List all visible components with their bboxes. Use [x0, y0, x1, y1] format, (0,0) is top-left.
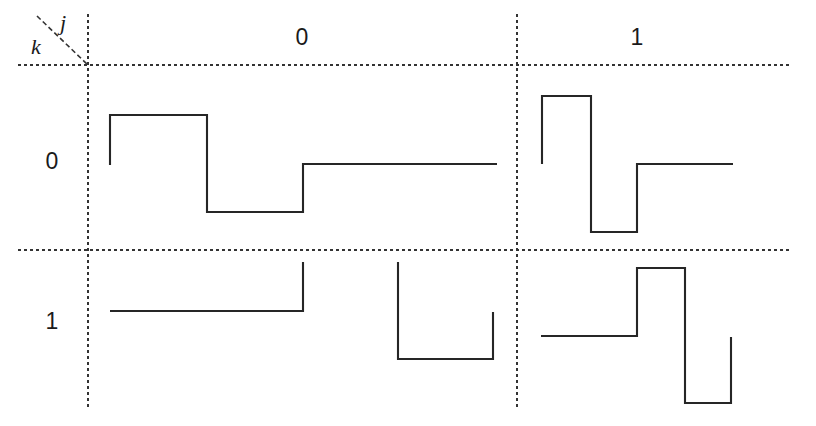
column-variable-label: j [60, 12, 66, 34]
figure-canvas [0, 0, 816, 426]
waveform-k0-j1 [542, 96, 733, 232]
row-header-1: 1 [32, 310, 72, 333]
waveform-k1-j1 [541, 268, 731, 403]
waveform-truth-table-figure: j k 0 1 0 1 [0, 0, 816, 426]
row-variable-label: k [31, 36, 41, 58]
row-header-0: 0 [32, 150, 72, 173]
waveform-k1-j0-segment-a [110, 262, 303, 311]
column-header-0: 0 [282, 26, 322, 49]
waveform-k0-j0 [110, 115, 497, 212]
grid-lines [18, 14, 790, 410]
waveform-k1-j0-segment-b [398, 262, 493, 359]
column-header-1: 1 [617, 26, 657, 49]
